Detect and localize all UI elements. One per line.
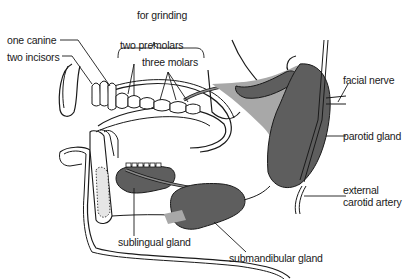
salivary-glands-diagram: for grinding one canine two incisors two… <box>0 0 416 279</box>
label-external-carotid-line2: carotid artery <box>343 196 401 208</box>
label-external-carotid-line1: external <box>343 184 379 196</box>
label-two-incisors: two incisors <box>7 51 59 63</box>
label-facial-nerve: facial nerve <box>343 74 394 86</box>
label-sublingual-gland: sublingual gland <box>118 236 191 248</box>
label-submandibular-gland: submandibular gland <box>229 252 323 264</box>
label-parotid-gland: parotid gland <box>343 130 401 142</box>
label-three-molars: three molars <box>142 56 198 68</box>
label-for-grinding: for grinding <box>137 9 187 21</box>
label-one-canine: one canine <box>7 34 56 46</box>
label-two-premolars: two premolars <box>120 39 183 51</box>
